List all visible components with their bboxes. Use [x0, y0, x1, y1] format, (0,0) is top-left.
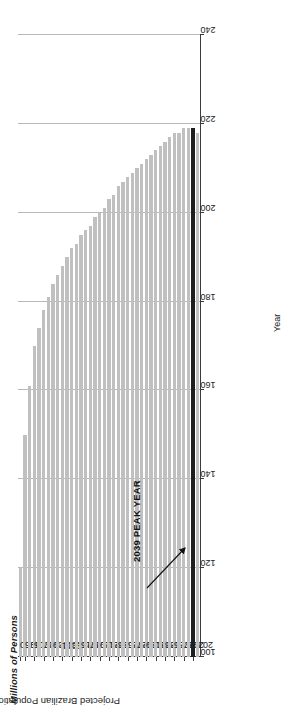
category-axis-tick: [118, 657, 119, 661]
bar: [23, 435, 26, 657]
category-axis-tick: [174, 657, 175, 661]
bar: [42, 311, 45, 658]
bar: [117, 186, 120, 657]
bar: [79, 235, 82, 657]
bar: [103, 208, 106, 657]
category-axis-tick: [184, 657, 185, 661]
bar: [112, 195, 115, 657]
bar: [131, 173, 134, 657]
bar: [61, 266, 64, 657]
category-axis-tick: [128, 657, 129, 661]
bar: [33, 346, 36, 657]
bar: [65, 257, 68, 657]
category-axis-tick: [44, 657, 45, 661]
category-axis-tick: [81, 657, 82, 661]
chart-figure: Millions of Persons Projected Brazilian …: [0, 0, 291, 712]
category-axis-tick: [20, 657, 21, 661]
bar: [75, 244, 78, 657]
value-axis-tick-label: 220: [200, 114, 215, 124]
bar: [93, 217, 96, 657]
bar: [56, 275, 59, 657]
value-axis-tick-label: 120: [200, 558, 215, 568]
value-axis-tick-label: 180: [200, 292, 215, 302]
category-axis-tick: [146, 657, 147, 661]
bar: [135, 168, 138, 657]
bar: [51, 284, 54, 657]
bar: [107, 199, 110, 657]
value-axis-tick-label: 160: [200, 380, 215, 390]
category-axis-tick: [34, 657, 35, 661]
bar: [47, 297, 50, 657]
category-axis-tick: [165, 657, 166, 661]
bar: [89, 226, 92, 657]
bar: [37, 328, 40, 657]
category-axis-tick: [72, 657, 73, 661]
value-axis-tick-label: 140: [200, 469, 215, 479]
value-axis-tick-label: 200: [200, 203, 215, 213]
category-axis-title: Year: [272, 314, 282, 332]
category-axis-tick: [53, 657, 54, 661]
value-gridline: [18, 123, 200, 124]
bar: [28, 386, 31, 657]
peak-year-annotation-arrow: [141, 524, 201, 594]
value-axis-tick-label: 240: [200, 25, 215, 35]
bar: [70, 248, 73, 657]
category-axis-tick: [62, 657, 63, 661]
category-axis-tick: [156, 657, 157, 661]
value-axis-title: Projected Brazilian Population: [0, 696, 120, 707]
bar: [84, 231, 87, 658]
bar: [126, 177, 129, 657]
category-axis-tick: [109, 657, 110, 661]
bar: [121, 182, 124, 657]
category-axis-tick: [137, 657, 138, 661]
bar: [98, 213, 101, 657]
category-axis-tick: [90, 657, 91, 661]
category-axis-tick: [100, 657, 101, 661]
value-gridline: [18, 34, 200, 35]
rotated-figure-wrapper: Millions of Persons Projected Brazilian …: [0, 0, 291, 712]
category-axis-tick: [25, 657, 26, 661]
category-axis-tick: [193, 657, 194, 661]
